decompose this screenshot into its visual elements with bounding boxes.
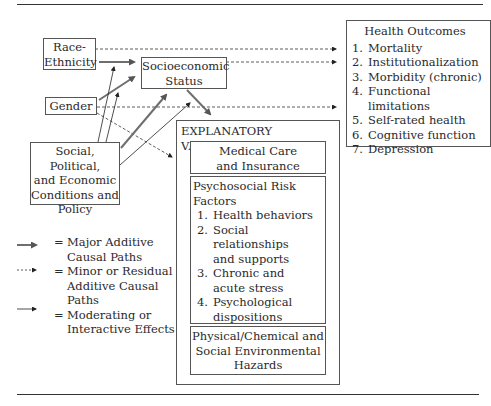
- gender-label: Gender: [46, 99, 96, 114]
- social-line3: Conditions and: [31, 188, 119, 203]
- medical-line2: and Insurance: [191, 159, 325, 174]
- arrow-social-ses: [121, 95, 166, 148]
- psychosocial-item: 1.Health behaviors: [197, 208, 325, 223]
- medical-line1: Medical Care: [191, 144, 325, 159]
- dashed-arrow-icon: [16, 264, 54, 278]
- legend: = Major AdditiveCausal Paths = Minor or …: [16, 235, 175, 337]
- node-health-outcomes: Health Outcomes 1.Mortality 2.Institutio…: [346, 20, 491, 147]
- node-environmental-hazards: Physical/Chemical and Social Environment…: [190, 326, 326, 375]
- node-explanatory-variables: EXPLANATORY VARIABLES Medical Care and I…: [176, 120, 340, 385]
- arrow-ses-explanatory: [187, 90, 210, 114]
- node-social-political-economic: Social, Political, and Economic Conditio…: [30, 142, 120, 205]
- node-socioeconomic-status: Socioeconomic Status: [141, 57, 227, 89]
- top-rule: [17, 4, 483, 5]
- social-line2: and Economic: [31, 173, 119, 188]
- arrow-gender-ses: [99, 77, 134, 100]
- psychosocial-item: 3.Chronic andacute stress: [197, 266, 325, 295]
- psychosocial-item: 2.Social relationshipsand supports: [197, 223, 325, 267]
- bottom-rule: [17, 394, 479, 395]
- race-line1: Race-: [44, 40, 95, 55]
- legend-minor: = Minor or ResidualAdditive CausalPaths: [16, 264, 175, 308]
- social-line1: Social, Political,: [31, 144, 119, 173]
- outcome-item: 2.Institutionalization: [352, 55, 490, 70]
- hazards-line1: Physical/Chemical and: [191, 329, 325, 344]
- legend-major: = Major AdditiveCausal Paths: [16, 235, 175, 264]
- outcome-item: 7.Depression: [352, 142, 490, 157]
- thin-arrow-icon: [16, 308, 54, 322]
- outcome-item: 1.Mortality: [352, 41, 490, 56]
- outcomes-list: 1.Mortality 2.Institutionalization 3.Mor…: [352, 41, 490, 157]
- node-psychosocial-risk-factors: Psychosocial Risk Factors 1.Health behav…: [190, 176, 326, 324]
- outcome-item: 5.Self-rated health: [352, 113, 490, 128]
- outcome-item: 4.Functional limitations: [352, 84, 490, 113]
- social-line4: Policy: [31, 202, 119, 217]
- major-arrow-icon: [16, 235, 54, 249]
- race-line2: Ethnicity: [44, 55, 95, 70]
- hazards-line2: Social Environmental: [191, 344, 325, 359]
- psychosocial-title: Psychosocial Risk Factors: [193, 179, 325, 208]
- hazards-line3: Hazards: [191, 358, 325, 373]
- outcomes-title: Health Outcomes: [352, 24, 490, 39]
- psychosocial-item: 4.Psychologicaldispositions: [197, 295, 325, 324]
- outcome-item: 6.Cognitive function: [352, 128, 490, 143]
- node-race-ethnicity: Race- Ethnicity: [43, 38, 96, 70]
- arrow-social-race: [98, 67, 114, 142]
- legend-moderating: = Moderating orInteractive Effects: [16, 308, 175, 337]
- ses-line2: Status: [142, 74, 226, 89]
- arrow-social-gender: [106, 93, 118, 142]
- node-gender: Gender: [45, 97, 97, 115]
- node-medical-care: Medical Care and Insurance: [190, 141, 326, 174]
- outcome-item: 3.Morbidity (chronic): [352, 70, 490, 85]
- ses-line1: Socioeconomic: [142, 59, 226, 74]
